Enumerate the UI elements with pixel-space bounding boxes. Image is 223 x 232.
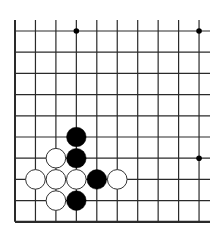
white-stone	[46, 170, 66, 190]
black-stone	[67, 127, 87, 147]
white-stone	[46, 191, 66, 211]
star-point-icon	[196, 155, 202, 161]
star-point-icon	[74, 28, 80, 34]
white-stone	[46, 148, 66, 168]
black-stone	[67, 191, 87, 211]
go-board[interactable]	[0, 0, 223, 232]
black-stone	[67, 148, 87, 168]
black-stone	[87, 170, 107, 190]
star-point-icon	[196, 28, 202, 34]
board-grid	[15, 20, 210, 222]
white-stone	[67, 170, 87, 190]
white-stone	[26, 170, 46, 190]
white-stone	[107, 170, 127, 190]
